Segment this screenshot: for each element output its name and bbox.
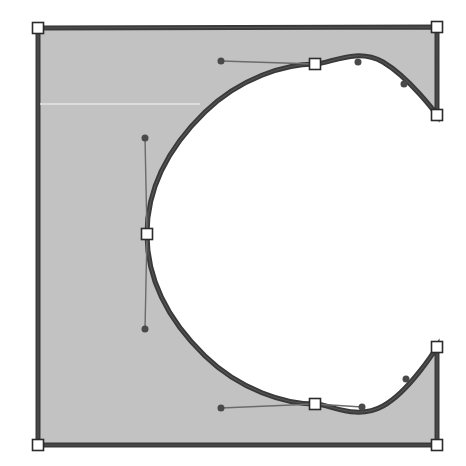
- bottom-arc-handle-in-dot[interactable]: [218, 405, 225, 412]
- lower-terminal-handle-dot[interactable]: [403, 376, 410, 383]
- left-arc-handle-up-dot[interactable]: [142, 135, 149, 142]
- lower-terminal-node[interactable]: [432, 342, 443, 353]
- glyph-editor-canvas-area[interactable]: Glyph Outline Editor C: [0, 0, 466, 466]
- top-arc-node[interactable]: [310, 59, 321, 70]
- top-arc-handle-out-dot[interactable]: [355, 59, 362, 66]
- outline-svg[interactable]: [0, 0, 466, 466]
- top-arc-handle-in-dot[interactable]: [218, 58, 225, 65]
- upper-terminal-handle-dot[interactable]: [401, 81, 408, 88]
- left-arc-node[interactable]: [142, 229, 153, 240]
- top-left-corner-node[interactable]: [33, 23, 44, 34]
- left-arc-handle-down-dot[interactable]: [142, 326, 149, 333]
- bottom-arc-handle-out-dot[interactable]: [359, 404, 366, 411]
- bottom-right-corner-node[interactable]: [432, 440, 443, 451]
- top-right-corner-node[interactable]: [432, 22, 443, 33]
- upper-terminal-node[interactable]: [432, 110, 443, 121]
- bottom-left-corner-node[interactable]: [33, 440, 44, 451]
- bottom-arc-node[interactable]: [310, 399, 321, 410]
